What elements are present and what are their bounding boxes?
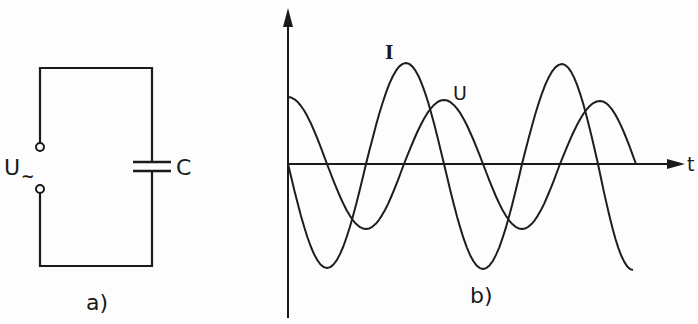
waveform-chart: t I U b) (283, 8, 694, 318)
terminal-bottom-icon (36, 185, 44, 193)
figure-svg: U ~ C a) t I U b) (0, 0, 698, 324)
voltage-curve-label: U (453, 82, 467, 104)
source-label: U (4, 155, 20, 180)
x-axis-arrow-icon (667, 159, 685, 169)
y-axis-arrow-icon (283, 8, 293, 27)
panel-a-caption: a) (86, 290, 108, 315)
circuit-wire-top (40, 68, 152, 162)
circuit-wire-bottom (40, 171, 152, 266)
terminal-top-icon (36, 143, 44, 151)
circuit-diagram: U ~ C a) (4, 68, 191, 315)
current-curve-label: I (385, 42, 393, 63)
source-ac-subscript: ~ (21, 167, 34, 186)
capacitor-icon (133, 162, 171, 171)
capacitor-label: C (176, 155, 191, 180)
figure-canvas: U ~ C a) t I U b) (0, 0, 698, 324)
panel-b-caption: b) (470, 283, 493, 308)
x-axis-label: t (687, 153, 694, 175)
